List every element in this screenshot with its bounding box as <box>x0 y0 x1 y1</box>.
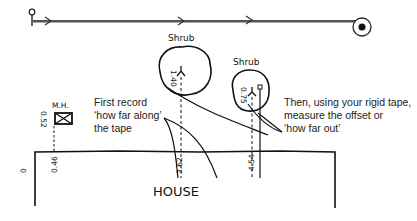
note-then-measure: Then, using your rigid tape, measure the… <box>284 96 411 134</box>
shrub-1: Shrub 1.40 <box>159 33 211 178</box>
manhole-along: 0.46 <box>50 156 59 173</box>
note-first-record: First record ‘how far along’ the tape <box>94 96 162 134</box>
shrub-1-along: 3.62 <box>175 157 184 174</box>
manhole-offset: 0.52 <box>39 111 48 128</box>
house-outline: HOUSE <box>35 151 335 208</box>
shrub-1-label: Shrub <box>168 33 195 43</box>
svg-text:Then, using your rigid tape,: Then, using your rigid tape, <box>284 96 411 108</box>
shrub-2-along: 4.54 <box>247 154 256 171</box>
shrub-centre-icon <box>248 87 256 96</box>
svg-text:‘how far along’: ‘how far along’ <box>94 109 162 121</box>
shrub-1-offset: 1.40 <box>169 70 178 87</box>
shrub-2-offset: 0.75 <box>239 87 248 104</box>
survey-diagram: Shrub 1.40 Shrub 0.75 M.H. 0.52 HOUSE <box>0 0 417 221</box>
tape-end-marker-icon <box>258 85 262 89</box>
manhole: M.H. 0.52 <box>39 101 72 152</box>
shrub-2-label: Shrub <box>233 57 260 67</box>
svg-text:measure the offset or: measure the offset or <box>284 109 384 121</box>
measuring-tape <box>33 16 360 25</box>
origin-mark: 0 <box>19 168 28 173</box>
tape-reel-icon <box>353 18 371 36</box>
svg-text:First record: First record <box>94 96 147 108</box>
house-label: HOUSE <box>153 184 199 199</box>
svg-text:the tape: the tape <box>94 122 132 134</box>
svg-text:‘how far out’: ‘how far out’ <box>284 122 341 134</box>
manhole-label: M.H. <box>52 101 69 110</box>
tape-anchor-peg-icon <box>29 9 35 26</box>
